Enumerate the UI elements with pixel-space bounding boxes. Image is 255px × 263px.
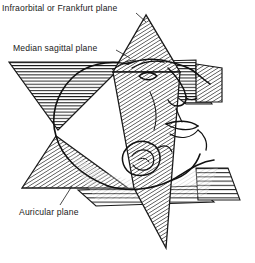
- diagram-canvas: [0, 0, 255, 263]
- anatomical-plane-diagram: Infraorbital or Frankfurt plane Median s…: [0, 0, 255, 263]
- label-auricular-plane: Auricular plane: [19, 208, 79, 217]
- leader-line-auricular: [60, 186, 72, 205]
- frankfurt-plane-left-wing: [9, 62, 126, 130]
- label-median-sagittal-plane: Median sagittal plane: [13, 44, 97, 53]
- label-frankfurt-plane: Infraorbital or Frankfurt plane: [2, 4, 117, 13]
- chin-line: [198, 130, 207, 150]
- median-sagittal-plane: [113, 15, 180, 248]
